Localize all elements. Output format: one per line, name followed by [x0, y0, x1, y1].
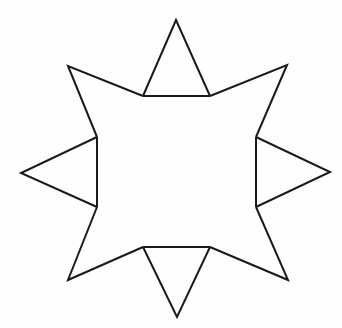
star-point-west: [21, 137, 97, 207]
inner-octagon-group: [97, 96, 256, 247]
star-points-group: [21, 20, 330, 317]
star-point-southwest: [68, 207, 143, 280]
star-point-southeast: [210, 207, 288, 280]
star-point-south: [143, 247, 210, 317]
figure-canvas: Eight-Pointed Star Line drawing of an ei…: [0, 0, 342, 328]
star-point-northwest: [68, 66, 143, 137]
star-point-east: [256, 137, 330, 207]
star-point-northeast: [210, 65, 287, 137]
eight-pointed-star-drawing: [0, 0, 342, 328]
star-point-north: [143, 20, 210, 96]
